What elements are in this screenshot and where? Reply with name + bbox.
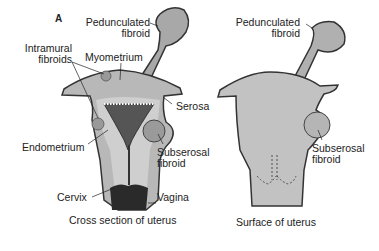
label-pedunculated-fibroid-surface: Pedunculated fibroid — [232, 17, 300, 39]
label-line: fibroid — [157, 158, 210, 169]
label-subserosal-fibroid-surface: Subserosal fibroid — [312, 143, 365, 165]
label-line: fibroid — [232, 28, 300, 39]
caption-cross-section: Cross section of uterus — [69, 214, 176, 226]
label-pedunculated-fibroid: Pedunculated fibroid — [84, 17, 150, 39]
label-vagina: Vagina — [157, 192, 189, 203]
label-serosa: Serosa — [176, 101, 209, 112]
label-line: fibroid — [312, 154, 365, 165]
label-intramural-fibroids: Intramural fibroids — [12, 43, 72, 65]
label-line: fibroids — [12, 54, 72, 65]
label-line: fibroid — [84, 28, 150, 39]
panel-label: A — [55, 13, 62, 24]
label-endometrium: Endometrium — [22, 142, 84, 153]
surface-illustration — [218, 22, 345, 206]
label-subserosal-fibroid: Subserosal fibroid — [157, 147, 210, 169]
label-cervix: Cervix — [57, 192, 87, 203]
uterus-diagram — [0, 0, 379, 251]
caption-surface: Surface of uterus — [236, 216, 316, 228]
label-myometrium: Myometrium — [85, 52, 143, 63]
